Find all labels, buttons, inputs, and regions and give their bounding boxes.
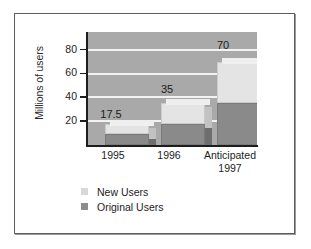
bar-1996-side-original: [205, 128, 212, 145]
y-tick-40: [80, 96, 87, 98]
bar-1996-segment-original-users: [161, 124, 205, 145]
y-tick-label-20: 20: [31, 115, 77, 126]
bar-1996: [161, 103, 205, 145]
y-tick-60: [80, 73, 87, 75]
bar-1997-segment-new-users: [217, 62, 257, 103]
bar-chart-figure: Millions of users: [15, 14, 296, 235]
y-tick-20: [80, 120, 87, 122]
bar-1997-segment-original-users: [217, 103, 257, 145]
legend-item-original-users: Original Users: [81, 199, 164, 214]
y-tick-80: [80, 49, 87, 51]
y-tick-labels: 80 60 40 20: [23, 14, 77, 145]
legend-label-original-users: Original Users: [97, 201, 164, 213]
bar-1996-top-face: [166, 99, 210, 105]
x-axis-line: [86, 145, 258, 147]
data-label-1995: 17.5: [91, 108, 131, 120]
bar-1995-side-new: [149, 128, 156, 139]
x-tick-label-1996: 1996: [141, 149, 197, 162]
legend-swatch-original-users-icon: [81, 203, 88, 210]
data-label-1996: 35: [147, 83, 187, 95]
bar-1997-top-face: [222, 58, 257, 64]
x-tick-label-1995: 1995: [85, 149, 141, 162]
figure-border: Millions of users: [14, 13, 295, 234]
bar-1996-side-new: [205, 107, 212, 128]
bar-1996-segment-new-users: [161, 103, 205, 124]
y-tick-label-80: 80: [31, 44, 77, 55]
y-tick-label-40: 40: [31, 91, 77, 102]
legend-label-new-users: New Users: [97, 186, 148, 198]
bar-1995-top-face: [110, 120, 154, 126]
x-tick-label-anticipated-1997: Anticipated 1997: [194, 149, 266, 175]
legend-item-new-users: New Users: [81, 184, 164, 199]
legend-swatch-new-users-icon: [81, 188, 88, 195]
bar-anticipated-1997: [217, 62, 257, 145]
chart-legend: New Users Original Users: [81, 184, 164, 214]
bar-1995: [105, 124, 149, 145]
bar-1995-segment-original-users: [105, 134, 149, 145]
y-tick-label-60: 60: [31, 67, 77, 78]
chart-page: Millions of users: [0, 0, 311, 249]
data-label-anticipated-1997: 70: [203, 39, 243, 51]
